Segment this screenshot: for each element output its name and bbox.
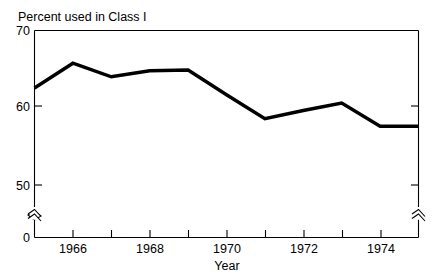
x-tick-label-1972: 1972 — [290, 242, 318, 256]
y-axis-break-left — [28, 210, 41, 222]
x-tick-label-1968: 1968 — [136, 242, 164, 256]
line-chart: Percent used in Class I 70 — [0, 0, 440, 279]
chart-title: Percent used in Class I — [18, 10, 147, 24]
y-tick-label-50: 50 — [16, 179, 30, 193]
x-tick-label-1966: 1966 — [59, 242, 87, 256]
chart-container: Percent used in Class I 70 — [0, 0, 440, 279]
y-tick-label-60: 60 — [16, 100, 30, 114]
data-series-line — [35, 63, 419, 126]
x-tick-label-1974: 1974 — [367, 242, 395, 256]
y-axis-break-right — [412, 210, 425, 222]
y-tick-label-0: 0 — [23, 231, 30, 245]
x-axis-title: Year — [214, 259, 239, 273]
y-tick-label-70: 70 — [16, 24, 30, 38]
x-tick-label-1970: 1970 — [213, 242, 241, 256]
